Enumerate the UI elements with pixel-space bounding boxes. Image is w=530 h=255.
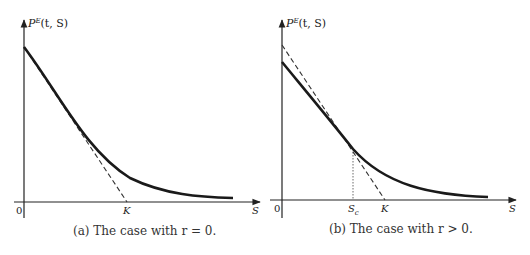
strike-label: K bbox=[122, 205, 131, 216]
origin-label: 0 bbox=[274, 203, 280, 214]
y-axis-label: PE(t, S) bbox=[285, 17, 326, 30]
payoff-dashed-line bbox=[282, 45, 385, 200]
option-price-curve bbox=[24, 47, 233, 198]
x-axis-label: S bbox=[509, 203, 516, 214]
x-axis-label: S bbox=[252, 205, 259, 216]
critical-price-label: Sc bbox=[348, 203, 359, 217]
caption-b: (b) The case with r > 0. bbox=[329, 222, 473, 236]
panel-b: PE(t, S) 0 Sc K S (b) The case with r > … bbox=[270, 17, 516, 236]
option-price-curve bbox=[282, 62, 488, 197]
strike-label: K bbox=[380, 203, 389, 214]
panel-a: PE(t, S) 0 K S (a) The case with r = 0. bbox=[14, 17, 260, 238]
y-axis-label: PE(t, S) bbox=[27, 17, 68, 30]
diagram-canvas: PE(t, S) 0 K S (a) The case with r = 0. … bbox=[0, 0, 530, 255]
caption-a: (a) The case with r = 0. bbox=[73, 224, 216, 238]
origin-label: 0 bbox=[16, 205, 22, 216]
